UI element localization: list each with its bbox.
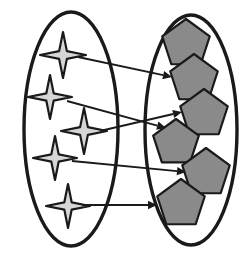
set-mapping-diagram [0, 0, 249, 258]
diagram-canvas [0, 0, 249, 258]
